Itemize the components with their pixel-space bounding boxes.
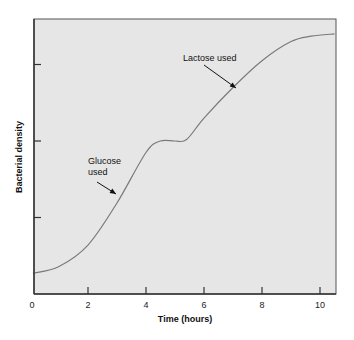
y-axis-title: Bacterial density — [14, 121, 24, 193]
x-tick-label: 4 — [143, 300, 148, 310]
x-tick-label: 2 — [85, 300, 90, 310]
growth-curve-chart: 0246810 GlucoseusedLactose used Time (ho… — [0, 0, 354, 340]
x-axis-title: Time (hours) — [158, 314, 212, 324]
x-tick-label: 8 — [259, 300, 264, 310]
x-tick-label: 10 — [315, 300, 325, 310]
x-tick-label: 0 — [29, 300, 34, 310]
annotation-text: used — [88, 167, 108, 177]
annotation-text: Lactose used — [183, 53, 237, 63]
x-tick-label: 6 — [201, 300, 206, 310]
annotation-text: Glucose — [88, 156, 121, 166]
